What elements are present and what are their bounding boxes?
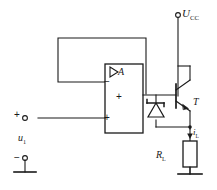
- input-source-label-subscript: 1: [23, 138, 26, 145]
- supply-label-subscript: CC: [190, 14, 199, 21]
- transistor-label: T: [193, 97, 199, 107]
- transistor-emitter-arrow: [183, 105, 188, 110]
- load-current-arrow: [187, 134, 193, 140]
- output-plus-sign: +: [116, 92, 122, 102]
- input-terminal-negative-sign: −: [14, 153, 20, 163]
- load-resistor-label-subscript: L: [162, 155, 166, 162]
- input-source-label: u1: [18, 133, 26, 145]
- schematic-canvas: [0, 0, 217, 190]
- input-terminal-positive-sign: +: [14, 110, 20, 120]
- zener-diode: [147, 95, 164, 127]
- supply-label: UCC: [182, 8, 199, 22]
- load-resistor-label: RL: [156, 150, 166, 162]
- load-current-label-subscript: L: [196, 133, 199, 139]
- input-terminal-positive-node: [23, 116, 28, 121]
- load-node-junction-dot: [188, 125, 192, 129]
- circuit-diagram: UCC A T iL RL u1 − + + + −: [0, 0, 217, 190]
- inverting-input-sign: −: [104, 77, 110, 87]
- noninverting-input-sign: +: [104, 113, 110, 123]
- supply-terminal-node: [176, 13, 181, 18]
- load-resistor-body: [183, 141, 197, 167]
- supply-label-symbol: U: [182, 7, 190, 19]
- opamp-label: A: [118, 67, 124, 77]
- load-current-label: iL: [193, 128, 199, 139]
